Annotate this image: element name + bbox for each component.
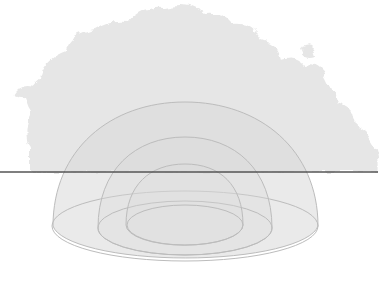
nested-domes-diagram [0,0,382,281]
